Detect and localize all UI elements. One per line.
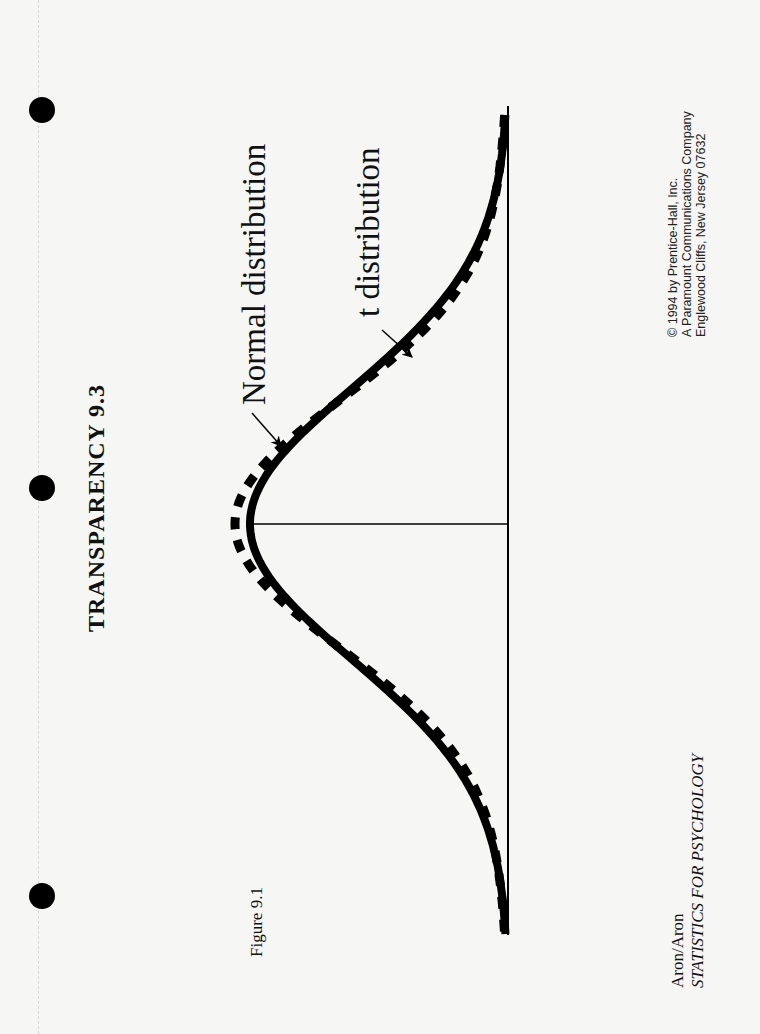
distribution-figure [0,0,760,1034]
transparency-page: TRANSPARENCY 9.3 Figure 9.1 Normal distr… [0,0,760,1034]
normal-label-arrow [252,413,281,446]
